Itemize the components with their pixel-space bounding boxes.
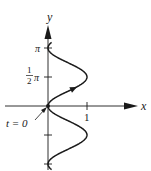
svg-text:1: 1 bbox=[27, 65, 32, 75]
x-tick-label-1: 1 bbox=[84, 111, 90, 123]
x-axis-label: x bbox=[140, 99, 147, 113]
x-axis-arrowhead bbox=[124, 103, 138, 110]
start-annotation: t = 0 bbox=[6, 117, 28, 129]
parametric-curve-figure: x y 1 π 1 2 π t = 0 bbox=[0, 0, 151, 171]
y-axis-arrowhead bbox=[45, 25, 52, 39]
svg-text:π: π bbox=[34, 72, 40, 83]
y-tick-label-pi: π bbox=[35, 43, 41, 54]
svg-text:2: 2 bbox=[27, 76, 32, 86]
y-tick-label-half-pi: 1 2 π bbox=[26, 65, 40, 86]
y-axis-label: y bbox=[46, 10, 53, 24]
